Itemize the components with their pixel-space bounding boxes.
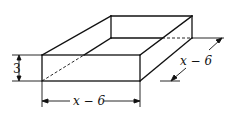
- box-solid-edges: [42, 16, 192, 81]
- top-right-edge: [140, 16, 192, 55]
- depth-label: x − 6: [180, 54, 212, 68]
- width-label: x − 6: [73, 94, 105, 108]
- hidden-edges: [42, 38, 192, 81]
- hidden-bottom-left-edge: [42, 55, 84, 81]
- height-label: 3: [13, 62, 21, 76]
- inner-left-floor-edge: [84, 38, 111, 55]
- front-face: [42, 55, 140, 81]
- box-diagram: 3 x − 6 x − 6: [0, 0, 232, 116]
- extension-lines: [12, 38, 224, 107]
- top-left-edge: [42, 16, 111, 55]
